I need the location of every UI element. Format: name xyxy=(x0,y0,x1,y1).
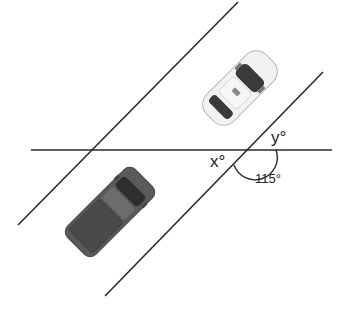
dark-pickup-truck xyxy=(61,163,159,261)
angle-label-y: y° xyxy=(271,129,286,146)
diagram-canvas xyxy=(0,0,343,314)
white-car xyxy=(197,45,283,131)
angle-label-x: x° xyxy=(210,153,225,170)
angle-label-115: 115° xyxy=(255,172,281,185)
